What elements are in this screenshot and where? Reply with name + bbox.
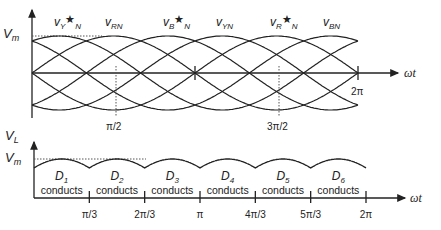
pi-half-label: π/2: [106, 121, 122, 132]
wave-label-vb-star-n: vB★N: [163, 13, 190, 31]
bottom-x-axis-label: ωt: [410, 191, 422, 205]
tick-label: π: [197, 209, 204, 220]
diode-label: D5: [276, 169, 290, 185]
rectifier-waveform-diagram: Vm vY★N vRN vB★N vYN vR★N vBN π/2 3π/2 2…: [0, 0, 441, 230]
tick-label: 2π/3: [134, 209, 155, 220]
bottom-plot: π/32π/3π4π/35π/32π VL Vm D1conductsD2con…: [5, 128, 422, 220]
wave-label-vbn: vBN: [323, 15, 340, 31]
top-x-axis-label: ωt: [404, 66, 416, 80]
conducts-label: conducts: [41, 184, 83, 196]
diode-label: D6: [332, 169, 346, 185]
top-plot: Vm vY★N vRN vB★N vYN vR★N vBN π/2 3π/2 2…: [3, 10, 416, 132]
conducts-label: conducts: [96, 184, 138, 196]
tick-label: π/3: [82, 209, 98, 220]
conducts-label: conducts: [317, 184, 359, 196]
conducts-label: conducts: [207, 184, 249, 196]
conducts-label: conducts: [151, 184, 193, 196]
wave-labels: vY★N vRN vB★N vYN vR★N vBN: [54, 13, 340, 31]
two-pi-label: 2π: [351, 86, 364, 97]
tick-label: 4π/3: [245, 209, 266, 220]
wave-label-vrn: vRN: [105, 15, 123, 31]
diode-label: D4: [221, 169, 235, 185]
wave-label-vy-star-n: vY★N: [54, 13, 81, 31]
bottom-y-axis-label: VL: [5, 128, 19, 145]
top-vm-label: Vm: [3, 26, 20, 43]
diode-label: D2: [110, 169, 124, 185]
diode-label: D3: [166, 169, 180, 185]
bottom-vm-label: Vm: [5, 150, 22, 167]
conducts-label: conducts: [262, 184, 304, 196]
tick-label: 5π/3: [300, 209, 321, 220]
output-voltage-ripple: [34, 159, 366, 168]
wave-label-vr-star-n: vR★N: [270, 13, 298, 31]
diode-label: D1: [55, 169, 68, 185]
wave-label-vyn: vYN: [216, 15, 233, 31]
three-pi-half-label: 3π/2: [267, 121, 288, 132]
tick-label: 2π: [360, 209, 373, 220]
